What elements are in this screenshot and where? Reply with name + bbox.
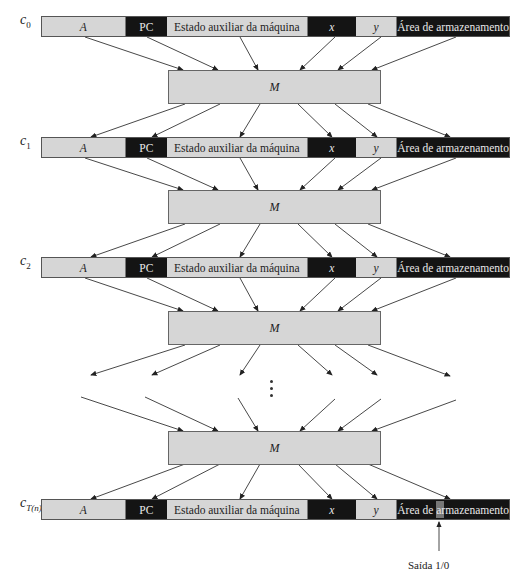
- output-label: Saída 1/0: [408, 559, 449, 571]
- configuration-row-2: A PC Estado auxiliar da máquina x y Área…: [41, 257, 510, 278]
- dot: [270, 380, 273, 383]
- machine-box-2: M: [168, 190, 381, 224]
- row-label-subscript: 0: [26, 20, 31, 30]
- row-label-c2: c2: [20, 253, 31, 271]
- machine-box-4: M: [168, 431, 381, 465]
- row-label-subscript: 2: [26, 261, 31, 271]
- cell-y: y: [356, 138, 397, 157]
- machine-box-1: M: [168, 70, 381, 104]
- row-label-subscript-text: T(n): [26, 503, 42, 513]
- cell-estado-auxiliar: Estado auxiliar da máquina: [167, 138, 308, 157]
- configuration-row-1: A PC Estado auxiliar da máquina x y Área…: [41, 137, 510, 158]
- cell-y: y: [356, 258, 397, 277]
- cell-pc: PC: [126, 258, 167, 277]
- cell-pc: PC: [126, 17, 167, 36]
- configuration-row-final: A PC Estado auxiliar da máquina x y Área…: [41, 499, 510, 520]
- cell-y: y: [356, 500, 397, 519]
- cell-area-armazenamento: Área de armazenamento: [397, 17, 509, 36]
- cell-a: A: [42, 500, 126, 519]
- dot: [270, 394, 273, 397]
- row-label-subscript: 1: [26, 141, 31, 151]
- configuration-row-0: A PC Estado auxiliar da máquina x y Área…: [41, 16, 510, 37]
- cell-a: A: [42, 138, 126, 157]
- row-label-subscript: T(n): [26, 503, 42, 513]
- cell-x: x: [308, 258, 356, 277]
- cell-estado-auxiliar: Estado auxiliar da máquina: [167, 258, 308, 277]
- row-label-c1: c1: [20, 133, 31, 151]
- cell-area-armazenamento: Área de armazenamento: [397, 258, 509, 277]
- cell-x: x: [308, 17, 356, 36]
- cell-area-armazenamento: Área de armazenamento: [397, 138, 509, 157]
- cell-area-armazenamento: Área de armazenamento: [397, 500, 509, 519]
- row-label-ctn: cT(n): [20, 495, 42, 513]
- machine-box-3: M: [168, 311, 381, 345]
- cell-a: A: [42, 258, 126, 277]
- cell-estado-auxiliar: Estado auxiliar da máquina: [167, 500, 308, 519]
- row-label-c0: c0: [20, 12, 31, 30]
- cell-y: y: [356, 17, 397, 36]
- dot: [270, 387, 273, 390]
- cell-pc: PC: [126, 500, 167, 519]
- cell-a: A: [42, 17, 126, 36]
- area-label: Área de armazenamento: [397, 504, 509, 516]
- ellipsis-dots: [270, 380, 274, 401]
- cell-x: x: [308, 500, 356, 519]
- cell-estado-auxiliar: Estado auxiliar da máquina: [167, 17, 308, 36]
- cell-pc: PC: [126, 138, 167, 157]
- cell-x: x: [308, 138, 356, 157]
